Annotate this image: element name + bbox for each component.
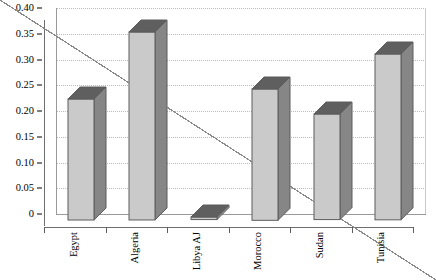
y-axis-tick-mark — [37, 59, 42, 60]
y-axis-tick-mark — [37, 188, 42, 189]
y-axis-tick-mark — [37, 8, 42, 9]
y-axis-tick-mark — [37, 85, 42, 86]
bar-chart: 0.400.350.300.250.200.150.100.050 EgyptA… — [0, 0, 436, 280]
y-axis-tick-mark — [37, 136, 42, 137]
y-axis-tick-mark — [37, 162, 42, 163]
x-axis-category-label: Sudan — [315, 232, 326, 258]
x-axis: EgyptAlgeriaLibya AJMoroccoSudanTunisia — [0, 0, 436, 280]
x-axis-category-label: Egypt — [69, 232, 80, 257]
x-axis-tick-mark — [413, 227, 414, 233]
x-axis-tick-mark — [290, 227, 291, 233]
y-axis-tick-mark — [37, 111, 42, 112]
y-axis-tick-mark — [37, 33, 42, 34]
x-axis-tick-mark — [106, 227, 107, 233]
x-axis-tick-mark — [44, 227, 45, 233]
x-axis-tick-mark — [352, 227, 353, 233]
x-axis-category-label: Morocco — [253, 232, 264, 270]
x-axis-category-label: Tunisia — [376, 232, 387, 263]
y-axis-tick-mark — [37, 214, 42, 215]
x-axis-category-label: Algeria — [130, 232, 141, 264]
x-axis-tick-mark — [229, 227, 230, 233]
x-axis-category-label: Libya AJ — [192, 232, 203, 270]
x-axis-tick-mark — [167, 227, 168, 233]
